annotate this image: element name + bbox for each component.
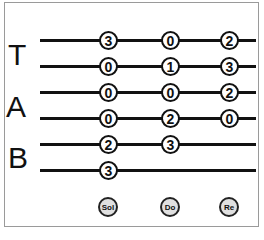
fret-marker: 0: [99, 57, 118, 76]
fret-marker: 3: [161, 135, 180, 154]
fret-marker: 2: [220, 83, 239, 102]
tab-letter-a: A: [6, 92, 26, 122]
string-line-5: [40, 143, 256, 146]
fret-marker: 3: [99, 31, 118, 50]
tab-letter-t: T: [8, 40, 26, 70]
fret-marker: 0: [161, 83, 180, 102]
fret-marker: 0: [99, 109, 118, 128]
fret-marker: 3: [220, 57, 239, 76]
string-line-6: [40, 169, 256, 172]
fret-marker: 0: [220, 109, 239, 128]
fret-marker: 2: [220, 31, 239, 50]
fret-marker: 0: [161, 31, 180, 50]
fret-marker: 2: [99, 135, 118, 154]
fret-marker: 3: [99, 161, 118, 180]
tab-letter-b: B: [8, 143, 28, 173]
fret-marker: 1: [161, 57, 180, 76]
fret-marker: 0: [99, 83, 118, 102]
chord-label-re: Re: [219, 197, 239, 217]
chord-label-sol: Sol: [98, 197, 118, 217]
fret-marker: 2: [161, 109, 180, 128]
chord-label-do: Do: [160, 197, 180, 217]
